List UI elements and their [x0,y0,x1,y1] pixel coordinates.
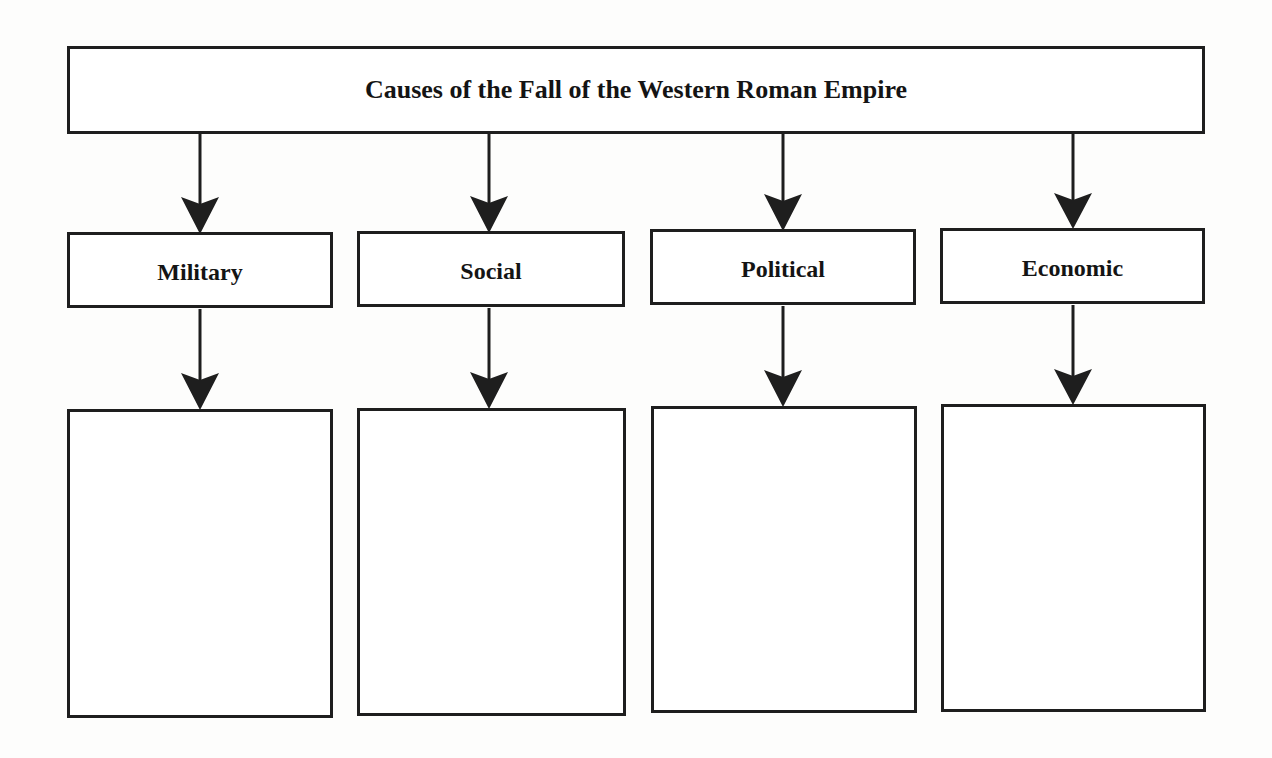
answer-box-social[interactable] [357,408,626,716]
category-box-political: Political [650,229,916,305]
arrow-down-icon [1054,193,1092,229]
arrow-down-icon [470,196,508,233]
arrow-down-icon [181,373,219,410]
answer-box-economic[interactable] [941,404,1206,712]
diagram-title: Causes of the Fall of the Western Roman … [365,75,907,105]
answer-box-political[interactable] [651,406,917,713]
category-label: Military [157,259,242,286]
category-label: Economic [1022,255,1123,282]
arrow-down-icon [470,372,508,409]
category-label: Political [741,256,825,283]
arrow-down-icon [764,194,802,231]
arrow-down-icon [181,197,219,234]
answer-box-military[interactable] [67,409,333,718]
category-label: Social [460,258,521,285]
category-box-social: Social [357,231,625,307]
category-box-economic: Economic [940,228,1205,304]
title-box: Causes of the Fall of the Western Roman … [67,46,1205,134]
graphic-organizer: Causes of the Fall of the Western Roman … [0,0,1272,758]
category-box-military: Military [67,232,333,308]
arrow-down-icon [764,370,802,407]
arrow-down-icon [1054,369,1092,405]
